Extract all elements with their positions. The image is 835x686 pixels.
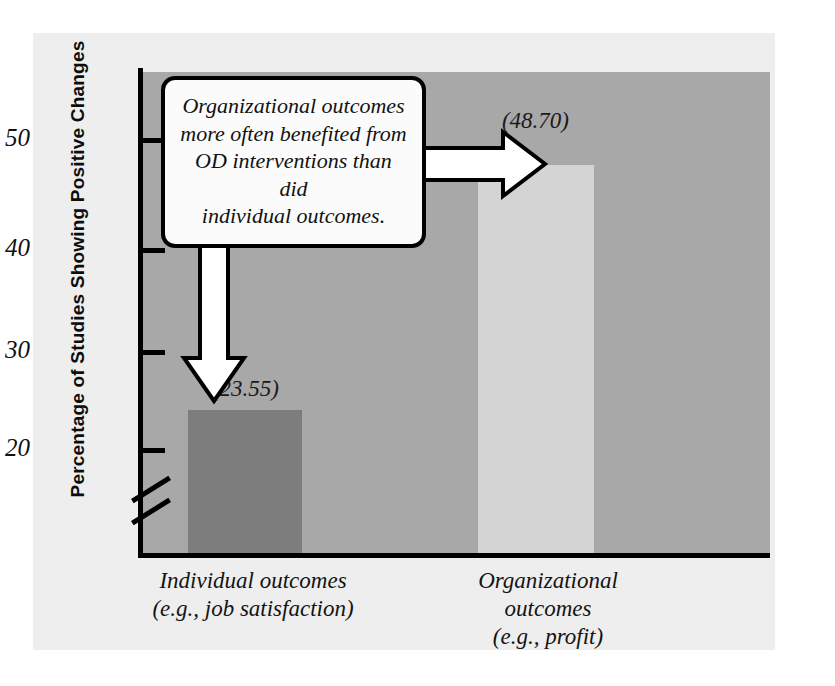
y-tick-40 [143,248,165,253]
x-category-line: (e.g., profit) [403,623,693,651]
y-tick-30 [143,350,165,355]
y-tick-label-50: 50 [0,125,30,150]
y-tick-label-40: 40 [0,235,30,260]
bar-individual-outcomes [188,410,302,553]
x-category-line: (e.g., job satisfaction) [93,595,413,623]
bar-value-label-organizational: (48.70) [463,108,608,134]
x-category-label-organizational: Organizational outcomes (e.g., profit) [403,567,693,651]
x-category-line: Individual outcomes [93,567,413,595]
bar-value-label-individual: (23.55) [173,376,318,402]
y-tick-20 [143,448,165,453]
y-tick-label-30: 30 [0,337,30,362]
callout-text: Organizational outcomes more often benef… [179,92,408,230]
x-category-label-individual: Individual outcomes (e.g., job satisfact… [93,567,413,623]
x-category-line: Organizational [403,567,693,595]
callout-box: Organizational outcomes more often benef… [161,76,426,248]
figure-panel: (23.55) (48.70) 50 40 30 20 Percentage o… [33,33,775,650]
y-tick-label-20: 20 [0,435,30,460]
x-axis-line [138,553,770,558]
axis-break-symbol [129,481,173,523]
bar-organizational-outcomes [478,165,594,553]
y-axis-title: Percentage of Studies Showing Positive C… [67,19,89,519]
x-category-line: outcomes [403,595,693,623]
